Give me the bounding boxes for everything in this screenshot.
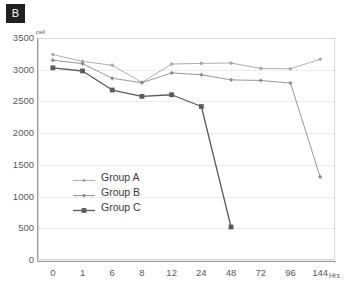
- data-point-marker: [51, 52, 55, 56]
- legend-item[interactable]: Group A: [72, 170, 141, 185]
- series-plot-layer: [0, 0, 349, 291]
- data-point-marker: [199, 73, 203, 77]
- data-point-marker: [170, 62, 174, 66]
- data-point-marker: [318, 57, 322, 61]
- data-point-marker: [199, 104, 204, 109]
- data-point-marker: [169, 92, 174, 97]
- legend-swatch-icon: [72, 202, 96, 213]
- data-point-marker: [259, 66, 263, 70]
- legend-item[interactable]: Group B: [72, 185, 141, 200]
- data-point-marker: [140, 94, 145, 99]
- data-point-marker: [80, 69, 85, 74]
- data-point-marker: [51, 58, 55, 62]
- data-point-marker: [110, 76, 114, 80]
- data-point-marker: [199, 61, 203, 65]
- chart-figure: B 0500100015002000250030003500 cell 0168…: [0, 0, 349, 291]
- legend-item[interactable]: Group C: [72, 200, 141, 215]
- data-point-marker: [170, 71, 174, 75]
- legend-label: Group A: [101, 172, 140, 183]
- data-point-marker: [318, 175, 322, 179]
- legend-label: Group B: [101, 187, 140, 198]
- data-point-marker: [110, 88, 115, 93]
- legend-label: Group C: [101, 202, 141, 213]
- data-point-marker: [80, 62, 84, 66]
- data-point-marker: [229, 78, 233, 82]
- data-point-marker: [229, 61, 233, 65]
- data-point-marker: [288, 67, 292, 71]
- data-point-marker: [229, 225, 234, 230]
- data-point-marker: [50, 65, 55, 70]
- chart-legend: Group AGroup BGroup C: [72, 170, 141, 215]
- data-point-marker: [259, 78, 263, 82]
- legend-swatch-icon: [72, 187, 96, 198]
- legend-swatch-icon: [72, 172, 96, 183]
- data-point-marker: [288, 81, 292, 85]
- data-point-marker: [110, 63, 114, 67]
